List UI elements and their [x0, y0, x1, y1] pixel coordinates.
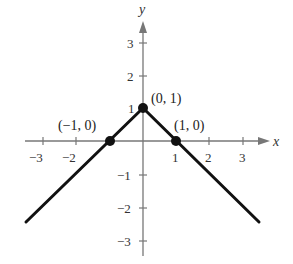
point-1-0: [171, 136, 181, 146]
x-tick-label: 2: [205, 150, 212, 165]
point-label-top: (0, 1): [151, 91, 182, 107]
y-axis-label: y: [137, 2, 146, 17]
y-tick-label: 2: [127, 69, 134, 84]
point-label-left: (−1, 0): [58, 118, 97, 134]
y-tick-label: −1: [117, 168, 131, 183]
y-tick-label: −2: [117, 201, 131, 216]
x-axis: x: [25, 134, 280, 149]
x-tick-label: 3: [239, 150, 246, 165]
x-axis-arrow-icon: [258, 137, 270, 145]
y-tick-label: 3: [127, 36, 134, 51]
point-0-1: [138, 103, 148, 113]
x-tick-label: 1: [172, 150, 179, 165]
y-tick-label: −3: [117, 234, 131, 249]
y-axis: y: [137, 2, 147, 256]
x-tick-label: −2: [62, 150, 76, 165]
point-label-right: (1, 0): [174, 118, 205, 134]
y-axis-arrow-icon: [139, 21, 147, 33]
y-tick-label: 1: [128, 101, 135, 116]
x-tick-label: −3: [29, 150, 43, 165]
chart-canvas: x y −3 −2 1 2 3 3 2 1 −1 −2 −3 (−1, 0) (…: [0, 0, 293, 264]
x-axis-label: x: [272, 134, 280, 149]
point-neg1-0: [105, 136, 115, 146]
